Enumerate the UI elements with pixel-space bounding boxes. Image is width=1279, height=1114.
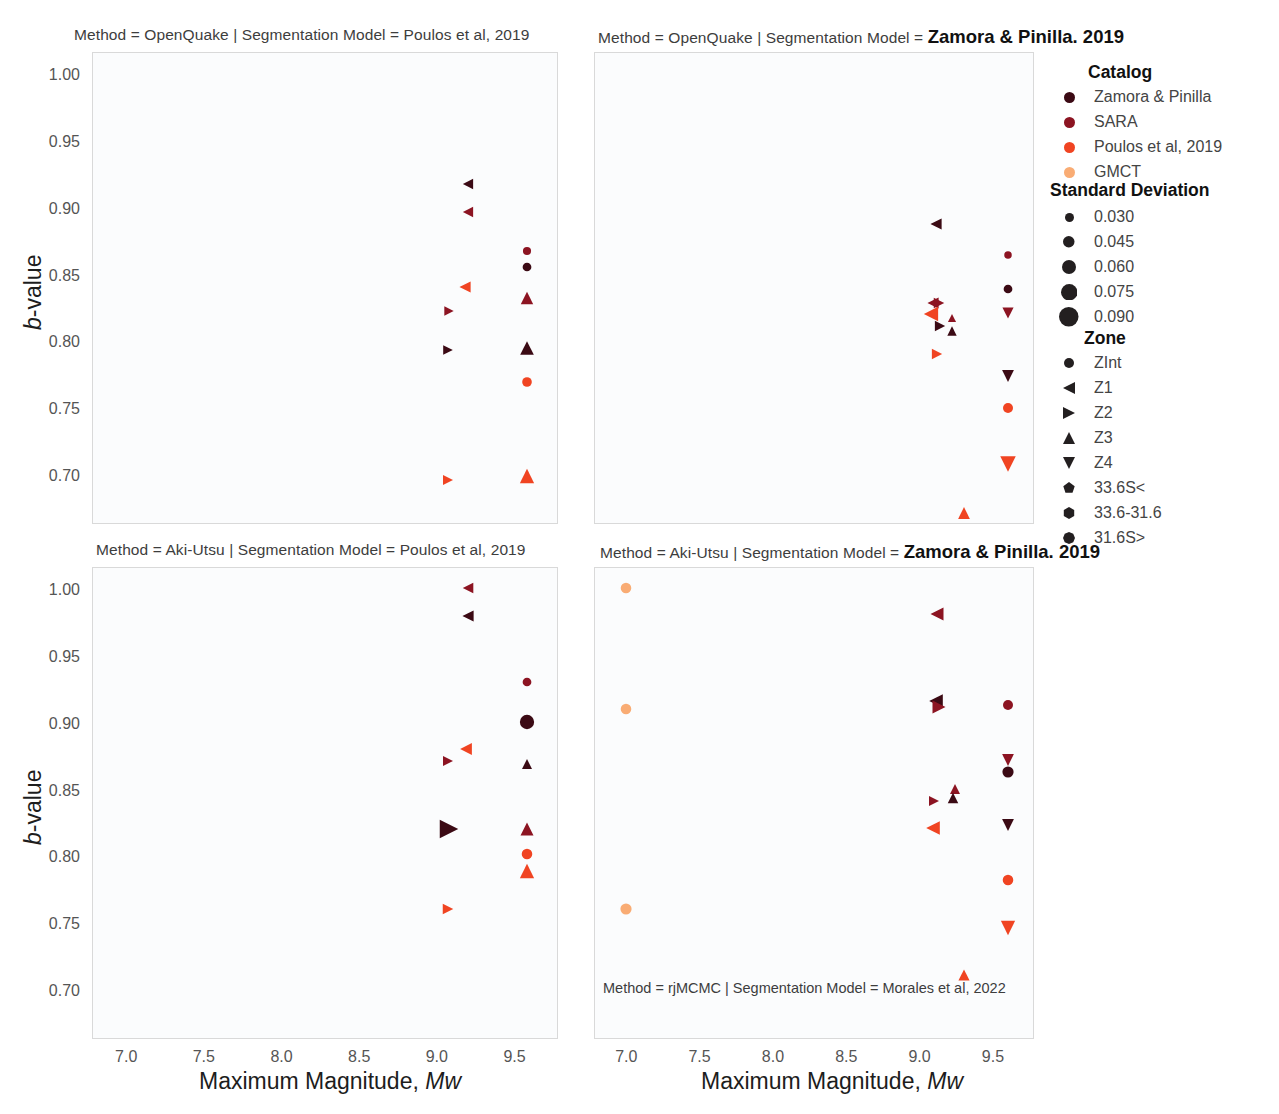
x-axis-label-left: Maximum Magnitude, Mw — [95, 1068, 565, 1095]
legend-hexagon-icon — [1063, 507, 1075, 519]
marker-circle-icon — [523, 263, 532, 272]
marker-triangle-right-icon — [443, 756, 453, 766]
data-point — [926, 821, 940, 835]
panel-bottom-right — [594, 567, 1034, 1039]
legend-catalog-row-0[interactable]: Zamora & Pinilla — [1050, 86, 1279, 108]
data-point — [930, 219, 941, 230]
data-point — [522, 759, 532, 769]
legend-catalog-swatch-1 — [1050, 117, 1088, 128]
panel-title-bottom-right: Method = Aki-Utsu | Segmentation Model =… — [600, 541, 1100, 563]
data-point — [621, 904, 632, 915]
data-point — [521, 292, 533, 304]
data-point — [1002, 370, 1014, 382]
legend-zone-row-4[interactable]: Z4 — [1050, 452, 1279, 474]
data-point — [442, 904, 453, 915]
data-point — [932, 349, 942, 359]
legend-zone-row-3[interactable]: Z3 — [1050, 427, 1279, 449]
legend-zone-label-3: Z3 — [1094, 429, 1113, 447]
marker-triangle-up-icon — [520, 469, 534, 483]
marker-triangle-up-icon — [520, 341, 534, 355]
legend-circle-icon — [1059, 307, 1079, 327]
legend-zone-label-0: ZInt — [1094, 354, 1122, 372]
legend-zone-swatch-5 — [1050, 482, 1088, 494]
legend-zone-row-6[interactable]: 33.6-31.6 — [1050, 502, 1279, 524]
data-point — [1002, 875, 1013, 886]
legend-zone-swatch-2 — [1050, 407, 1088, 419]
legend-catalog-row-1[interactable]: SARA — [1050, 111, 1279, 133]
legend-catalog-row-2[interactable]: Poulos et al, 2019 — [1050, 136, 1279, 158]
x-axis-label-italic-left: Mw — [425, 1068, 461, 1094]
marker-triangle-left-icon — [463, 583, 474, 594]
legend-catalog-swatch-3 — [1050, 167, 1088, 178]
panel-bottom-left — [92, 567, 558, 1039]
legend-standard-deviation-row-2[interactable]: 0.060 — [1050, 256, 1279, 278]
x-tick-bottom-left-4: 9.0 — [407, 1048, 467, 1066]
panel-title-emphasis-top-right: Zamora & Pinilla. 2019 — [928, 26, 1124, 47]
data-point — [520, 341, 534, 355]
legend-zone-row-1[interactable]: Z1 — [1050, 377, 1279, 399]
legend-zone-swatch-7 — [1050, 532, 1088, 544]
data-point — [523, 247, 531, 255]
y-tick-bottom-left-3: 0.85 — [20, 782, 80, 800]
marker-triangle-right-icon — [935, 321, 945, 331]
legend-catalog-swatch-0 — [1050, 92, 1088, 103]
y-tick-bottom-left-5: 0.75 — [20, 915, 80, 933]
legend-standard-deviation-swatch-4 — [1050, 307, 1088, 327]
data-point — [520, 823, 533, 836]
legend-standard-deviation-row-0[interactable]: 0.030 — [1050, 206, 1279, 228]
x-tick-bottom-left-0: 7.0 — [96, 1048, 156, 1066]
marker-triangle-right-icon — [443, 345, 453, 355]
marker-triangle-down-icon — [1000, 921, 1014, 935]
panel-top-right — [594, 52, 1034, 524]
data-point — [621, 703, 632, 714]
data-point — [1002, 819, 1014, 831]
marker-triangle-up-icon — [522, 759, 532, 769]
legend-zone-label-5: 33.6S< — [1094, 479, 1145, 497]
y-tick-bottom-left-1: 0.95 — [20, 648, 80, 666]
legend-zone-swatch-3 — [1050, 432, 1088, 444]
panel-title-prefix-bottom-left: Method = Aki-Utsu | Segmentation Model =… — [96, 541, 526, 558]
legend-catalog-label-3: GMCT — [1094, 163, 1141, 181]
legend-zone-row-7[interactable]: 31.6S> — [1050, 527, 1279, 549]
marker-triangle-down-icon — [1002, 307, 1013, 318]
data-point — [460, 743, 472, 755]
data-point — [443, 756, 453, 766]
y-axis-label-rest-top: -value — [20, 255, 46, 318]
y-tick-bottom-left-6: 0.70 — [20, 982, 80, 1000]
x-axis-label-prefix-left: Maximum Magnitude, — [199, 1068, 425, 1094]
marker-triangle-up-icon — [958, 969, 969, 980]
data-point — [1003, 284, 1012, 293]
data-point — [459, 282, 470, 293]
y-tick-top-left-6: 0.70 — [20, 467, 80, 485]
y-tick-top-left-2: 0.90 — [20, 200, 80, 218]
data-point — [958, 969, 969, 980]
legend-triangle-right-icon — [1063, 407, 1075, 419]
x-axis-label-prefix-right: Maximum Magnitude, — [701, 1068, 927, 1094]
data-point — [1000, 921, 1014, 935]
legend-zone-row-0[interactable]: ZInt — [1050, 352, 1279, 374]
marker-triangle-up-icon — [948, 793, 959, 804]
legend-standard-deviation-row-1[interactable]: 0.045 — [1050, 231, 1279, 253]
legend-circle-icon — [1064, 167, 1075, 178]
x-tick-bottom-right-0: 7.0 — [596, 1048, 656, 1066]
legend-pentagon-icon — [1063, 482, 1075, 494]
legend-zone-row-2[interactable]: Z2 — [1050, 402, 1279, 424]
x-tick-bottom-right-3: 8.5 — [816, 1048, 876, 1066]
panel-title-prefix-bottom-right: Method = Aki-Utsu | Segmentation Model = — [600, 544, 904, 561]
legend-circle-icon — [1064, 358, 1074, 368]
legend-triangle-down-icon — [1063, 457, 1075, 469]
legend-standard-deviation-row-3[interactable]: 0.075 — [1050, 281, 1279, 303]
inner-note-bottom-right: Method = rjMCMC | Segmentation Model = M… — [603, 980, 1006, 996]
marker-circle-icon — [523, 247, 531, 255]
y-tick-top-left-4: 0.80 — [20, 333, 80, 351]
legend-standard-deviation-row-4[interactable]: 0.090 — [1050, 306, 1279, 328]
legend-catalog-label-0: Zamora & Pinilla — [1094, 88, 1211, 106]
legend-circle-icon — [1061, 284, 1078, 301]
marker-triangle-up-icon — [948, 314, 956, 322]
marker-triangle-right-icon — [445, 307, 454, 316]
legend-zone-row-5[interactable]: 33.6S< — [1050, 477, 1279, 499]
panel-title-top-right: Method = OpenQuake | Segmentation Model … — [598, 26, 1124, 48]
marker-circle-icon — [1003, 403, 1013, 413]
data-point — [445, 307, 454, 316]
data-point — [523, 263, 532, 272]
